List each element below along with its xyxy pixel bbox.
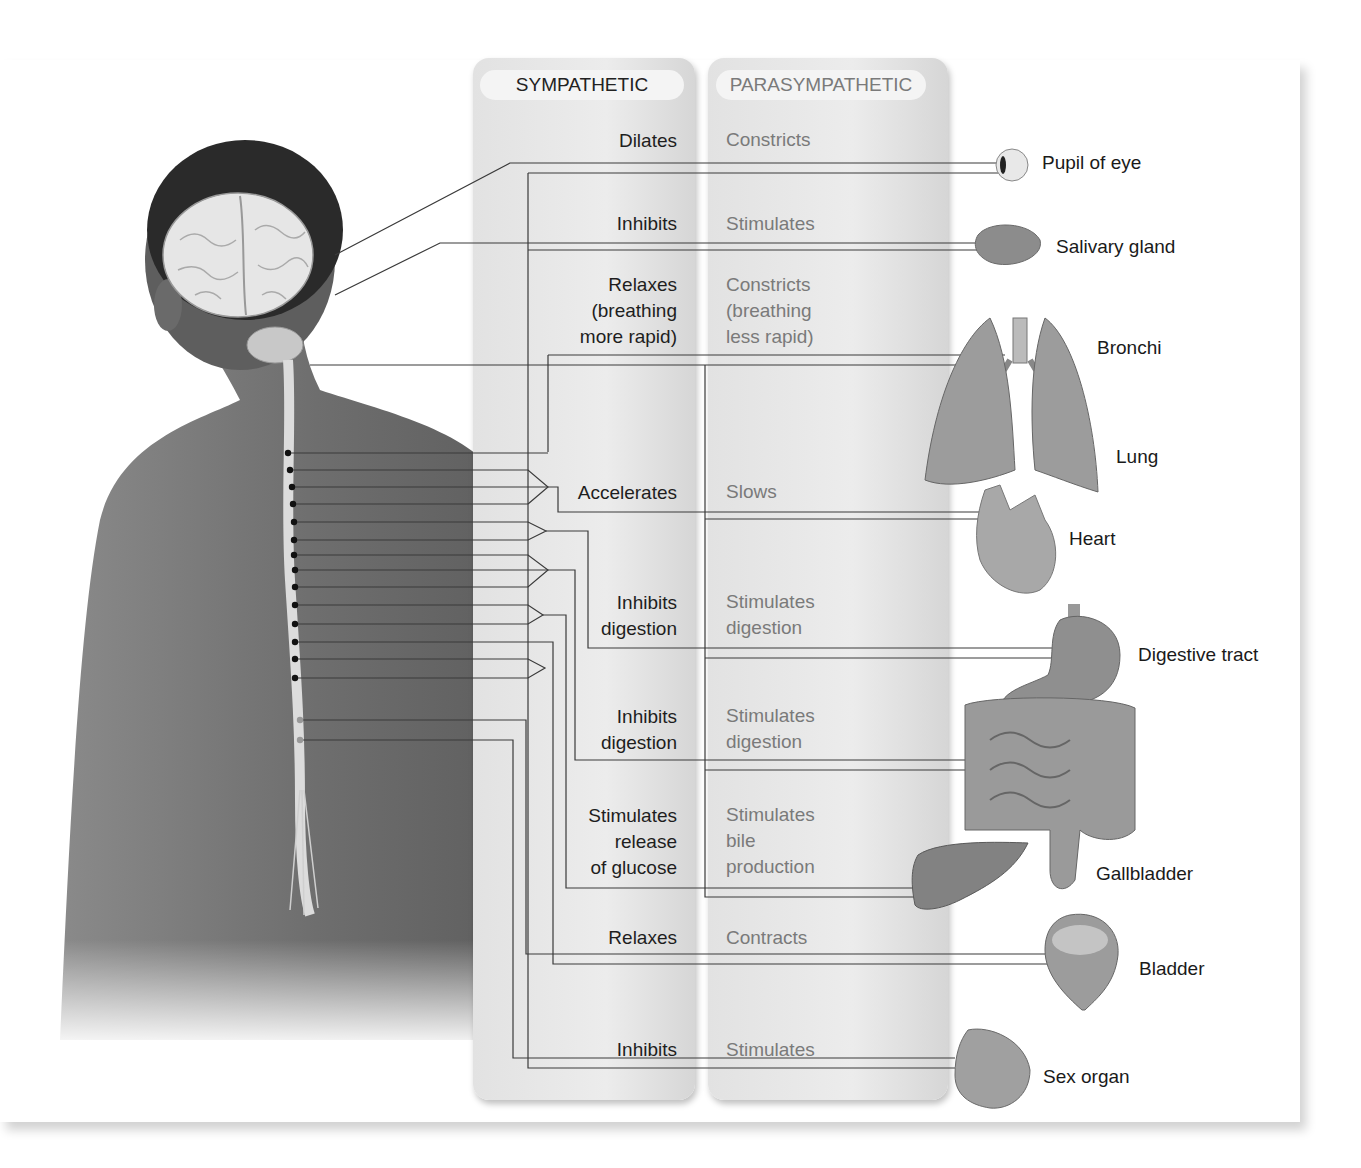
parasympathetic-effect-heart: Slows (726, 479, 777, 505)
sympathetic-effect-stomach: Inhibits digestion (601, 590, 677, 642)
organ-label-heart: Heart (1069, 528, 1115, 550)
parasympathetic-header: PARASYMPATHETIC (716, 70, 926, 100)
parasympathetic-effect-stomach: Stimulates digestion (726, 589, 815, 641)
organ-label-pupil: Pupil of eye (1042, 152, 1141, 174)
organ-label-gallbladder: Gallbladder (1096, 863, 1193, 885)
parasympathetic-effect-sex-organ: Stimulates (726, 1037, 815, 1063)
sympathetic-effect-pupil: Dilates (619, 128, 677, 154)
organ-label-bladder: Bladder (1139, 958, 1205, 980)
sympathetic-effect-gallbladder: Stimulates release of glucose (588, 803, 677, 881)
parasympathetic-effect-bladder: Contracts (726, 925, 807, 951)
organ-label-lung: Lung (1116, 446, 1158, 468)
parasympathetic-effect-bronchi: Constricts (breathing less rapid) (726, 272, 814, 350)
sympathetic-effect-salivary: Inhibits (617, 211, 677, 237)
sympathetic-effect-intestines: Inhibits digestion (601, 704, 677, 756)
sympathetic-header: SYMPATHETIC (480, 70, 684, 100)
parasympathetic-effect-gallbladder: Stimulates bile production (726, 802, 815, 880)
organ-label-digestive-tract: Digestive tract (1138, 644, 1258, 666)
sympathetic-effect-bronchi: Relaxes (breathing more rapid) (580, 272, 677, 350)
organ-label-sex-organ: Sex organ (1043, 1066, 1130, 1088)
parasympathetic-effect-salivary: Stimulates (726, 211, 815, 237)
parasympathetic-effect-pupil: Constricts (726, 127, 810, 153)
sympathetic-effect-heart: Accelerates (578, 480, 677, 506)
sympathetic-effect-sex-organ: Inhibits (617, 1037, 677, 1063)
organ-label-salivary-gland: Salivary gland (1056, 236, 1175, 258)
sympathetic-effect-bladder: Relaxes (608, 925, 677, 951)
organ-label-bronchi: Bronchi (1097, 337, 1161, 359)
parasympathetic-effect-intestines: Stimulates digestion (726, 703, 815, 755)
